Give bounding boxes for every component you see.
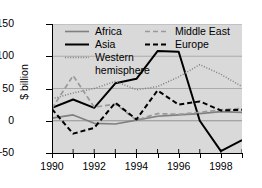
y-tick-mark [46,24,52,25]
legend-label-africa: Africa [95,26,122,37]
x-tick-mark [242,153,243,158]
x-tick-label: 1990 [32,160,72,172]
series-line-middle-east [52,76,242,121]
legend-swatch-asia [64,39,90,50]
series-line-africa [52,112,242,124]
chart-figure: Africa Middle East Asia Europe [0,0,262,188]
x-tick-mark [158,153,159,158]
legend-row-2: Asia Europe [64,39,244,52]
legend-item-middle-east: Middle East [144,26,230,37]
chart-legend: Africa Middle East Asia Europe [64,26,244,76]
legend-item-asia: Asia [64,39,144,50]
legend-item-western-hemisphere: Western [64,52,134,63]
y-tick-label: −50 [0,147,14,158]
x-tick-label: 1992 [74,160,114,172]
y-tick-label: 50 [0,83,14,94]
y-tick-label: 150 [0,18,14,29]
x-axis-line [52,153,242,154]
y-tick-mark [46,121,52,122]
legend-row-3: Western [64,52,244,65]
legend-label-western: Western [95,52,134,63]
legend-swatch-europe [144,39,170,50]
legend-swatch-middle-east [144,26,170,37]
x-tick-mark [179,153,180,158]
legend-label-asia: Asia [95,39,115,50]
y-axis-line [52,24,53,153]
x-tick-label: 1994 [116,160,156,172]
legend-label-middle-east: Middle East [175,26,230,37]
y-tick-mark [46,56,52,57]
legend-swatch-western-hemisphere [64,52,90,63]
x-tick-mark [221,153,222,158]
y-axis-title: $ billion [18,42,30,122]
legend-swatch-africa [64,26,90,37]
legend-label-hemisphere: hemisphere [95,65,244,76]
x-tick-label: 1996 [159,160,199,172]
x-tick-label: 1998 [201,160,241,172]
x-tick-mark [115,153,116,158]
x-tick-mark [73,153,74,158]
x-tick-mark [52,153,53,158]
x-tick-mark [200,153,201,158]
y-tick-mark [46,89,52,90]
legend-row-1: Africa Middle East [64,26,244,39]
y-tick-label: 100 [0,50,14,61]
legend-item-europe: Europe [144,39,209,50]
x-tick-mark [136,153,137,158]
legend-item-africa: Africa [64,26,144,37]
x-tick-mark [94,153,95,158]
y-tick-label: 0 [0,115,14,126]
legend-label-europe: Europe [175,39,209,50]
